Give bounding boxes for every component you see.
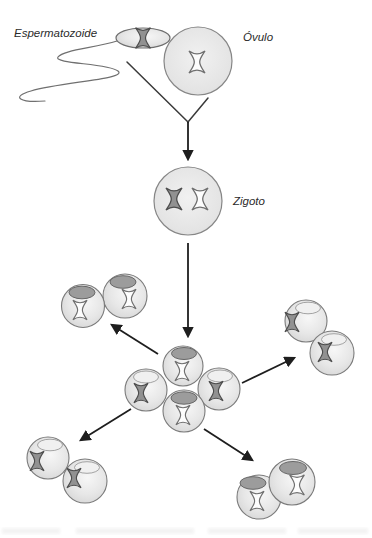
cell-nucleus-dark	[171, 392, 197, 404]
diagram-svg: Espermatozoide Óvulo Zigoto	[0, 0, 372, 538]
daughter-cell	[63, 459, 107, 503]
cluster-cell-bottom	[163, 390, 205, 432]
sperm-tail	[20, 41, 119, 101]
cell-nucleus-light	[296, 302, 321, 314]
cell-nucleus-dark	[172, 348, 197, 360]
cluster-cell-top	[163, 346, 203, 386]
cell-nucleus-light	[134, 371, 159, 383]
daughter-cell	[269, 459, 315, 505]
cluster-cell-right	[198, 368, 240, 410]
cluster-to-top-right-arrow	[242, 358, 294, 383]
zygote	[154, 167, 222, 235]
daughter-pair-bottom-left	[27, 437, 107, 503]
label-sperm: Espermatozoide	[14, 27, 97, 39]
daughter-cell	[62, 285, 105, 328]
daughter-cell	[27, 437, 69, 479]
daughter-pair-top-left	[62, 274, 148, 328]
daughter-cell	[310, 331, 354, 375]
cluster-to-bottom-right-arrow	[204, 429, 252, 460]
fusion-line-from-egg	[188, 98, 208, 122]
cluster-to-top-left-arrow	[112, 325, 158, 354]
daughter-cell	[103, 274, 147, 318]
label-zygote: Zigoto	[232, 195, 266, 207]
cluster-to-bottom-left-arrow	[81, 409, 131, 440]
zygote-cell	[154, 167, 222, 235]
cell-nucleus-dark	[110, 276, 136, 289]
cluster-cell-left	[125, 369, 167, 411]
cell-cluster	[125, 346, 240, 432]
page-bleed-artifact	[2, 528, 368, 534]
cell-nucleus-dark	[280, 462, 307, 475]
daughter-pair-top-right	[285, 300, 354, 375]
cell-nucleus-dark	[69, 286, 95, 299]
daughter-pair-bottom-right	[237, 459, 315, 519]
cell-nucleus-light	[208, 370, 233, 382]
label-egg: Óvulo	[243, 31, 274, 43]
cell-nucleus-light	[322, 334, 347, 346]
fertilization-diagram: Espermatozoide Óvulo Zigoto	[0, 0, 372, 538]
cell-nucleus-dark	[240, 477, 266, 490]
cell-nucleus-light	[38, 439, 63, 451]
egg	[164, 27, 232, 95]
